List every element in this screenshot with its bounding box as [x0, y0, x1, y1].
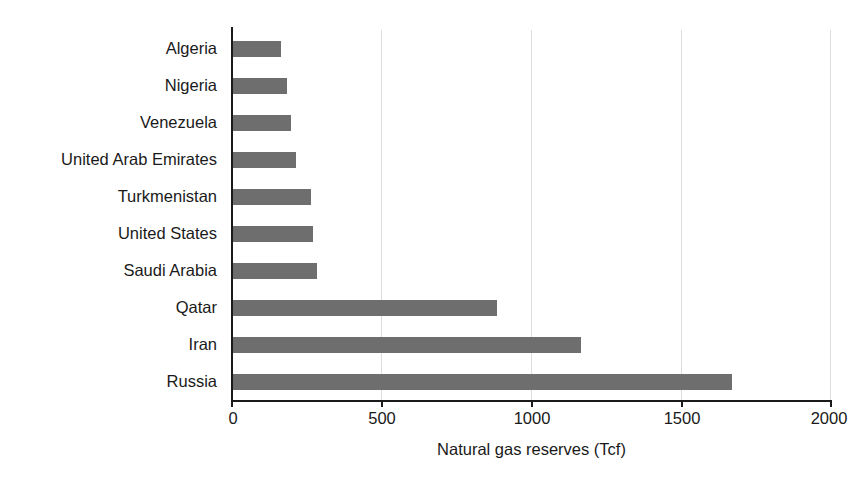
category-label-nigeria: Nigeria	[0, 67, 225, 104]
category-label-qatar: Qatar	[0, 289, 225, 326]
category-axis-labels: Algeria Nigeria Venezuela United Arab Em…	[0, 30, 225, 400]
category-label-russia: Russia	[0, 363, 225, 400]
category-label-united-states: United States	[0, 215, 225, 252]
x-tick-label-0: 0	[228, 409, 237, 428]
x-tick-label-1500: 1500	[664, 409, 701, 428]
category-label-iran: Iran	[0, 326, 225, 363]
y-axis-line	[231, 27, 233, 401]
x-tick-mark-1500	[681, 400, 683, 407]
bar-united-states	[231, 226, 313, 242]
x-tick-mark-1000	[531, 400, 533, 407]
x-axis-title: Natural gas reserves (Tcf)	[231, 440, 832, 459]
bar-nigeria	[231, 78, 287, 94]
natural-gas-reserves-bar-chart: Algeria Nigeria Venezuela United Arab Em…	[0, 0, 867, 488]
bar-saudi-arabia	[231, 263, 317, 279]
x-tick-label-1000: 1000	[514, 409, 551, 428]
category-label-united-arab-emirates: United Arab Emirates	[0, 141, 225, 178]
category-label-algeria: Algeria	[0, 30, 225, 67]
bar-turkmenistan	[231, 189, 311, 205]
category-label-saudi-arabia: Saudi Arabia	[0, 252, 225, 289]
bar-russia	[231, 374, 732, 390]
category-label-venezuela: Venezuela	[0, 104, 225, 141]
x-tick-mark-0	[231, 400, 233, 407]
gridline-1500	[681, 30, 682, 400]
bar-iran	[231, 337, 581, 353]
bar-algeria	[231, 41, 281, 57]
x-tick-mark-500	[381, 400, 383, 407]
bar-qatar	[231, 300, 497, 316]
gridline-2000	[830, 30, 831, 400]
plot-area	[231, 30, 831, 400]
category-label-turkmenistan: Turkmenistan	[0, 178, 225, 215]
x-tick-label-2000: 2000	[811, 409, 848, 428]
bar-venezuela	[231, 115, 291, 131]
x-tick-mark-2000	[830, 400, 832, 407]
bar-united-arab-emirates	[231, 152, 296, 168]
x-tick-label-500: 500	[368, 409, 396, 428]
